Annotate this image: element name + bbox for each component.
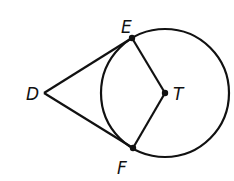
segment-ft <box>133 93 165 148</box>
segment-de <box>44 38 132 93</box>
segment-et <box>132 38 165 93</box>
segment-df <box>44 93 133 148</box>
point-f <box>130 145 136 151</box>
label-e: E <box>121 17 132 37</box>
geometry-diagram: D E F T <box>0 0 234 181</box>
diagram-svg: D E F T <box>0 0 234 181</box>
label-t: T <box>173 84 185 104</box>
label-f: F <box>117 158 127 178</box>
label-d: D <box>26 84 39 104</box>
point-t <box>162 90 168 96</box>
